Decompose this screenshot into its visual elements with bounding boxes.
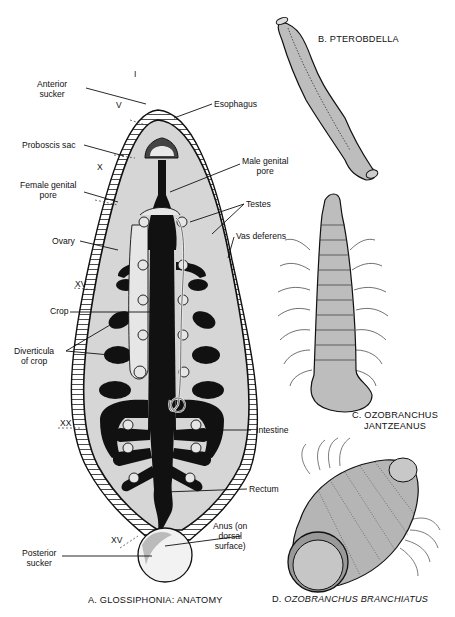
caption-panel-c-line2: JANTZEANUS (352, 421, 438, 432)
label-male-genital-pore-line1: Male genital (242, 156, 288, 166)
caption-panel-c: C. OZOBRANCHUS JANTZEANUS (352, 410, 438, 432)
label-anus-line2: dorsal (213, 531, 247, 541)
label-vas-deferens: Vas deferens (236, 231, 286, 241)
ozobranchus-branchiatus-drawing (288, 438, 440, 592)
label-esophagus: Esophagus (214, 99, 257, 109)
label-female-genital-pore-line1: Female genital (20, 180, 76, 190)
label-posterior-sucker: Posterior sucker (22, 548, 56, 568)
label-ovary: Ovary (52, 236, 75, 246)
caption-panel-d: D. OZOBRANCHUS BRANCHIATUS (272, 594, 428, 604)
glossiphonia-body (71, 110, 257, 582)
label-posterior-sucker-line1: Posterior (22, 548, 56, 558)
segment-marker-I: I (134, 69, 136, 79)
label-anterior-sucker: Anterior sucker (37, 79, 67, 99)
label-testes: Testes (246, 199, 271, 209)
segment-marker-XV-posterior: XV (111, 535, 122, 545)
caption-panel-a: A. GLOSSIPHONIA: ANATOMY (88, 595, 223, 605)
caption-panel-d-prefix: D. (272, 594, 282, 604)
label-posterior-sucker-line2: sucker (22, 558, 56, 568)
caption-panel-c-line1: C. OZOBRANCHUS (352, 410, 438, 421)
label-intestine: Intestine (256, 425, 289, 435)
ozobranchus-jantzeanus-drawing (278, 194, 388, 412)
label-anus-line1: Anus (on (213, 521, 247, 531)
label-male-genital-pore: Male genital pore (242, 156, 288, 176)
label-anterior-sucker-line2: sucker (37, 89, 67, 99)
segment-marker-X: X (97, 162, 103, 172)
label-female-genital-pore-line2: pore (20, 190, 76, 200)
label-anterior-sucker-line1: Anterior (37, 79, 67, 89)
label-crop: Crop (50, 306, 69, 316)
caption-panel-d-species: OZOBRANCHUS BRANCHIATUS (284, 594, 428, 604)
label-female-genital-pore: Female genital pore (20, 180, 76, 200)
label-diverticula-of-crop: Diverticula of crop (14, 346, 54, 366)
caption-panel-b: B. PTEROBDELLA (318, 34, 399, 44)
label-diverticula-line1: Diverticula (14, 346, 54, 356)
segment-marker-XV: XV (75, 279, 86, 289)
label-anus: Anus (on dorsal surface) (213, 521, 247, 551)
segment-marker-V: V (116, 100, 122, 110)
segment-marker-XX: XX (60, 418, 71, 428)
label-anus-line3: surface) (213, 541, 247, 551)
label-diverticula-line2: of crop (14, 356, 54, 366)
label-rectum: Rectum (249, 484, 279, 494)
label-proboscis-sac: Proboscis sac (22, 140, 76, 150)
label-male-genital-pore-line2: pore (242, 166, 288, 176)
